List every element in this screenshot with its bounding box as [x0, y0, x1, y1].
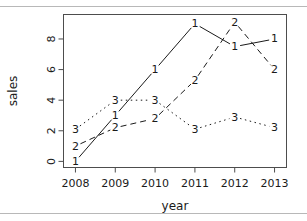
x-axis-tick-label: 2011	[181, 177, 209, 190]
data-point-label: 2	[152, 112, 159, 125]
series-line-segment	[238, 26, 271, 65]
data-point-label: 3	[152, 94, 159, 107]
x-axis-tick-label: 2008	[61, 177, 89, 190]
x-axis-tick-label: 2009	[101, 177, 129, 190]
data-point-label: 3	[191, 123, 198, 136]
data-point-label: 2	[112, 121, 119, 134]
series-line-segment	[121, 120, 150, 127]
x-axis-tick-label: 2012	[221, 177, 249, 190]
series-line-segment	[200, 119, 229, 128]
plot-frame	[64, 15, 287, 168]
data-point-label: 1	[112, 109, 119, 122]
y-axis-tick-label: 6	[45, 66, 58, 73]
data-point-label: 3	[112, 94, 119, 107]
series-line-segment	[198, 27, 232, 76]
data-point-label: 1	[191, 17, 198, 30]
series-line-segment	[119, 74, 152, 112]
y-axis-tick-label: 4	[45, 97, 58, 104]
x-axis-tick-label: 2013	[261, 177, 289, 190]
y-axis-title: sales	[6, 76, 20, 107]
series-point-labels: 111111222222333333	[72, 16, 278, 168]
series-line-segment	[80, 130, 110, 144]
plot-border	[64, 15, 287, 168]
series-lines	[79, 26, 271, 157]
data-point-label: 3	[72, 123, 79, 136]
data-point-label: 1	[271, 32, 278, 45]
series-line-segment	[200, 26, 230, 43]
data-point-label: 1	[231, 40, 238, 53]
x-axis: 200820092010201120122013	[61, 168, 288, 190]
x-axis-title: year	[162, 199, 189, 213]
data-point-label: 2	[191, 74, 198, 87]
series-line-segment	[159, 84, 191, 115]
sales-by-year-chart: 02468 200820092010201120122013 111111222…	[0, 0, 307, 221]
y-axis: 02468	[45, 35, 64, 164]
data-point-label: 3	[231, 111, 238, 124]
series-line-segment	[160, 103, 191, 126]
series-line-segment	[159, 28, 192, 66]
y-axis-tick-label: 2	[45, 127, 58, 134]
series-line-segment	[79, 120, 112, 158]
data-point-label: 1	[72, 155, 79, 168]
data-point-label: 2	[271, 63, 278, 76]
series-line-segment	[80, 103, 111, 126]
data-point-label: 2	[231, 16, 238, 29]
data-point-label: 3	[271, 121, 278, 134]
bottom-divider-rule	[0, 213, 307, 214]
x-axis-tick-label: 2010	[141, 177, 169, 190]
data-point-label: 2	[72, 140, 79, 153]
y-axis-tick-label: 8	[45, 35, 58, 42]
y-axis-tick-label: 0	[45, 158, 58, 165]
series-line-segment	[240, 40, 269, 46]
series-line-segment	[240, 118, 269, 126]
data-point-label: 1	[152, 63, 159, 76]
chart-canvas: 02468 200820092010201120122013 111111222…	[0, 0, 307, 221]
